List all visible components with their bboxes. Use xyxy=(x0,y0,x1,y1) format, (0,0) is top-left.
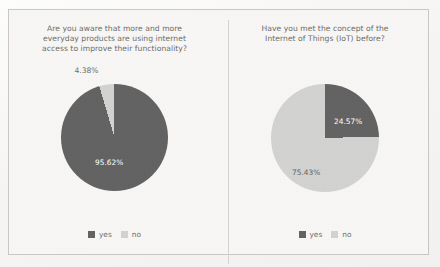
legend-iot: yes no xyxy=(220,231,430,238)
pie-graphic-iot: 24.57% 75.43% xyxy=(271,84,379,192)
legend-label-no: no xyxy=(342,231,351,238)
legend-awareness: yes no xyxy=(9,231,220,238)
chart-title-iot: Have you met the concept of the Internet… xyxy=(220,24,430,44)
pie-chart-awareness: 95.62% xyxy=(9,84,220,191)
scanned-figure-page: Are you aware that more and more everyda… xyxy=(0,0,440,267)
legend-item-yes-iot: yes xyxy=(299,231,323,238)
slice-label-yes-awareness: 95.62% xyxy=(95,158,123,167)
figure-frame: Are you aware that more and more everyda… xyxy=(8,9,429,255)
legend-item-yes-awareness: yes xyxy=(88,231,112,238)
legend-label-no: no xyxy=(132,231,141,238)
legend-item-no-iot: no xyxy=(331,231,351,238)
slice-label-no-iot: 75.43% xyxy=(292,168,320,177)
legend-label-yes: yes xyxy=(99,231,112,238)
legend-label-yes: yes xyxy=(310,231,323,238)
legend-swatch-yes-icon xyxy=(299,231,306,238)
chart-panel-awareness: Are you aware that more and more everyda… xyxy=(9,10,220,256)
pie-chart-iot: 24.57% 75.43% xyxy=(220,84,430,192)
legend-swatch-no-icon xyxy=(331,231,338,238)
slice-label-no-awareness: 4.38% xyxy=(9,66,220,75)
slice-label-yes-iot: 24.57% xyxy=(334,117,362,126)
legend-swatch-no-icon xyxy=(121,231,128,238)
chart-panel-iot: Have you met the concept of the Internet… xyxy=(220,10,430,256)
legend-item-no-awareness: no xyxy=(121,231,141,238)
legend-swatch-yes-icon xyxy=(88,231,95,238)
pie-graphic-awareness: 95.62% xyxy=(61,84,168,191)
chart-title-awareness: Are you aware that more and more everyda… xyxy=(9,24,220,55)
